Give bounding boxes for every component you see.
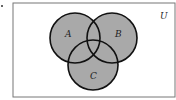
venn-diagram: A B C U	[0, 0, 176, 100]
set-c-label: C	[90, 71, 97, 81]
set-b-label: B	[114, 29, 122, 39]
set-a-label: A	[64, 29, 72, 39]
universe-label: U	[160, 11, 168, 21]
